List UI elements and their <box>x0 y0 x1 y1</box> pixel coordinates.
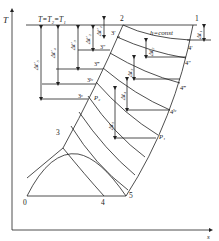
point-4-iv: 4ᴵᵛ <box>170 108 177 115</box>
left-reference-lines <box>42 37 120 84</box>
point-2: 2 <box>120 14 124 23</box>
point-P2: P₂ <box>93 94 101 101</box>
point-P1: P₁ <box>158 133 165 140</box>
point-0: 0 <box>23 198 27 207</box>
point-4: 4 <box>101 198 105 207</box>
t-axis-label: T <box>3 15 9 25</box>
right-boundary <box>126 25 193 196</box>
delta-t3-prime: Δt′₃ <box>69 39 77 51</box>
delta-t2-prime: Δt′₂ <box>84 33 92 45</box>
point-5: 5 <box>129 191 133 200</box>
point-4-double: 4″ <box>185 59 191 66</box>
point-3: 3 <box>56 128 60 137</box>
right-reference-lines <box>114 40 211 138</box>
isenthalp-label: h=const <box>150 29 174 37</box>
saturation-dome <box>27 154 126 196</box>
point-3-double: 3″ <box>100 44 106 50</box>
ts-diagram: T s T=T₂=T₁ <box>0 0 219 241</box>
delta-t4: Δt₄ <box>119 91 127 101</box>
delta-t2: Δt₂ <box>147 47 155 57</box>
point-3-v: 3ᵛ <box>78 93 83 99</box>
point-3-prime: 3′ <box>111 29 116 36</box>
delta-t3: Δt₃ <box>126 68 134 78</box>
point-3-triple: 3‴ <box>94 61 100 67</box>
delta-t1: Δt₁ <box>195 31 203 41</box>
delta-t4-prime: Δt′₄ <box>49 47 57 59</box>
point-1: 1 <box>195 14 199 23</box>
delta-t1-prime: Δt′₁ <box>95 26 103 37</box>
point-4-triple: 4‴ <box>180 84 186 91</box>
point-3-iv: 3ᴵᵛ <box>87 77 93 83</box>
axes <box>12 10 211 230</box>
right-delta-arrows <box>115 26 204 138</box>
delta-t5: Δt₅ <box>107 121 115 131</box>
point-4-prime: 4′ <box>188 44 193 51</box>
delta-t5-prime: Δt′₅ <box>32 59 40 71</box>
isotherm-label: T=T₂=T₁ <box>38 15 66 24</box>
s-axis-label: s <box>207 233 210 241</box>
